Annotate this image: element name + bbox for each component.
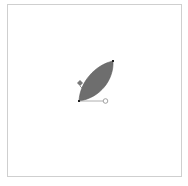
anchor-point-top-right[interactable] bbox=[112, 60, 114, 62]
vector-artwork[interactable] bbox=[0, 0, 188, 186]
bezier-handle-point[interactable] bbox=[103, 99, 108, 104]
anchor-point-bottom-left[interactable] bbox=[78, 100, 80, 102]
leaf-shape[interactable] bbox=[79, 61, 113, 101]
